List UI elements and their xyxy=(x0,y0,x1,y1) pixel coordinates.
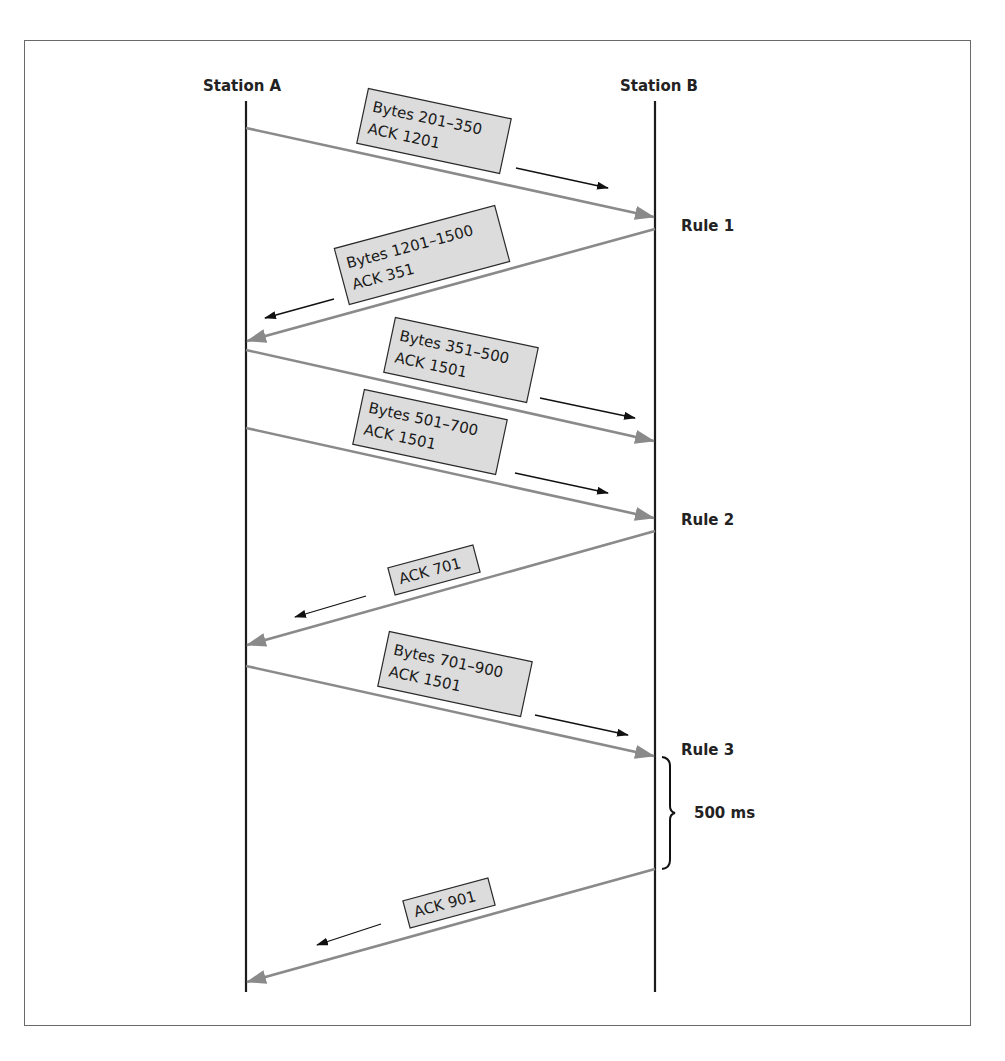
sequence-diagram: Station A Station B Bytes 201–350ACK 120… xyxy=(0,0,1005,1061)
timer-brace-icon xyxy=(662,757,675,869)
message-arrow xyxy=(247,869,655,982)
message-label-box: Bytes 701–900ACK 1501 xyxy=(378,631,532,716)
message-label-box: ACK 901 xyxy=(403,878,495,928)
direction-arrow-icon xyxy=(516,168,608,188)
message-list: Bytes 201–350ACK 1201Bytes 1201–1500ACK … xyxy=(246,88,655,982)
message-6: Bytes 701–900ACK 1501 xyxy=(246,631,654,756)
message-2: Bytes 1201–1500ACK 351 xyxy=(247,206,655,341)
timer-label: 500 ms xyxy=(694,804,755,822)
station-b-label: Station B xyxy=(620,77,698,95)
rule-1-label: Rule 1 xyxy=(681,217,734,235)
message-label-box: ACK 701 xyxy=(388,545,480,595)
rule-2-label: Rule 2 xyxy=(681,511,734,529)
message-1: Bytes 201–350ACK 1201 xyxy=(246,88,654,217)
message-label-box: Bytes 351–500ACK 1501 xyxy=(384,317,538,402)
message-7: ACK 901 xyxy=(247,869,655,982)
message-arrow xyxy=(247,531,655,645)
message-label-box: Bytes 201–350ACK 1201 xyxy=(357,88,511,173)
message-5: ACK 701 xyxy=(247,531,655,645)
message-label-box: Bytes 1201–1500ACK 351 xyxy=(334,206,509,305)
station-a-label: Station A xyxy=(203,77,282,95)
direction-arrow-icon xyxy=(265,299,334,318)
direction-arrow-icon xyxy=(317,924,381,945)
direction-arrow-icon xyxy=(540,398,635,418)
rule-3-label: Rule 3 xyxy=(681,741,734,759)
